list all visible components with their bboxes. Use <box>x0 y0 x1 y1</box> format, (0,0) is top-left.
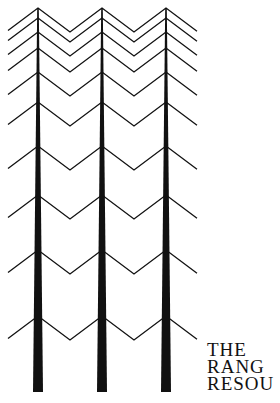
organization-title: THE RANG RESOU <box>207 341 274 392</box>
pine-trees-logo <box>0 0 200 403</box>
tree-trunk <box>161 8 171 392</box>
title-line-3: RESOU <box>207 375 274 392</box>
tree-trunk <box>97 8 107 392</box>
tree-trunk <box>33 8 43 392</box>
